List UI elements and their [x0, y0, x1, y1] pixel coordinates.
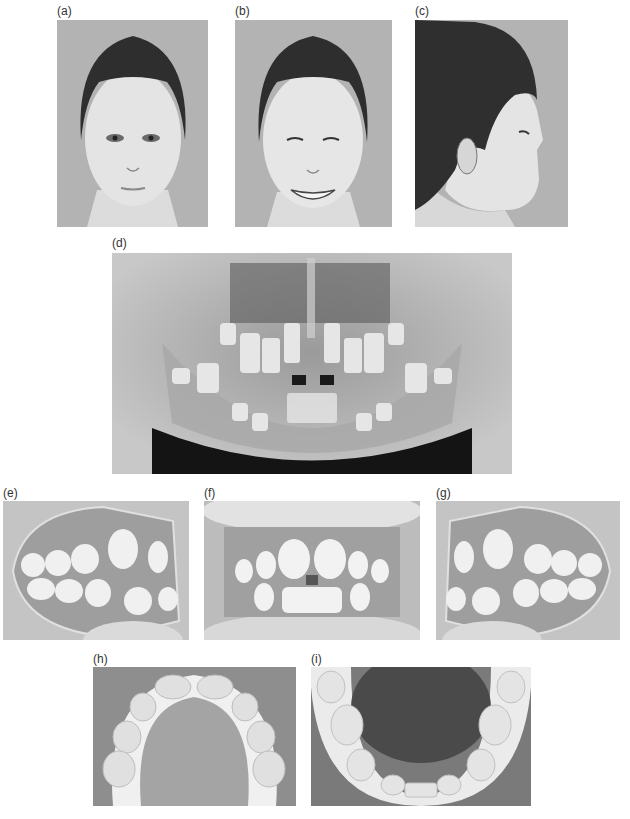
panel-label-b: (b) — [235, 5, 250, 17]
frontal-face-photo — [57, 20, 208, 227]
panel-label-i: (i) — [311, 653, 322, 665]
maxillary-occlusal-photo — [93, 667, 296, 806]
panel-label-f: (f) — [204, 487, 215, 499]
frontal-intraoral-photo — [204, 501, 420, 640]
panel-label-d: (d) — [112, 237, 127, 249]
panel-label-c: (c) — [415, 5, 429, 17]
panel-label-g: (g) — [436, 487, 451, 499]
right-buccal-intraoral-photo — [3, 501, 189, 640]
smiling-face-photo — [235, 20, 392, 227]
left-buccal-intraoral-photo — [436, 501, 620, 640]
panoramic-radiograph — [112, 253, 512, 474]
mandibular-occlusal-photo — [311, 667, 531, 806]
panel-label-a: (a) — [57, 5, 72, 17]
panel-label-e: (e) — [3, 487, 18, 499]
panel-label-h: (h) — [93, 653, 108, 665]
profile-face-photo — [415, 20, 568, 227]
